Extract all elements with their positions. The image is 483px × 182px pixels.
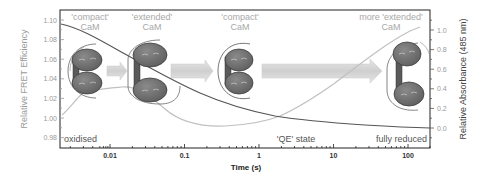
left-tick-label: 0.98 <box>43 134 57 141</box>
x-tick-labels: 0.01 0.1 1 10 100 <box>103 152 414 159</box>
right-tick-label: 0.2 <box>437 105 447 112</box>
x-axis-title: Time (s) <box>231 163 262 172</box>
transition-arrow-3 <box>262 59 382 83</box>
right-tick-label: 0.0 <box>437 125 447 132</box>
left-tick-label: 1.06 <box>43 56 57 63</box>
annotation-fully-reduced: fully reduced <box>376 134 427 144</box>
transition-arrow-2 <box>171 60 213 82</box>
x-axis <box>70 144 430 148</box>
x-tick-label: 0.1 <box>180 152 190 159</box>
chart-canvas: 1.10 1.08 1.06 1.04 1.02 1.00 0.98 Relat… <box>0 0 483 182</box>
right-tick-label: 0.4 <box>437 85 447 92</box>
state-label-compact-1-line1: 'compact' <box>71 12 109 22</box>
cam-structure-more-extended <box>387 42 431 110</box>
state-label-more-extended-line1: more 'extended' <box>359 12 423 22</box>
x-tick-label: 100 <box>402 152 414 159</box>
state-label-compact-2-line1: 'compact' <box>221 12 259 22</box>
state-label-compact-1-line2: CaM <box>80 22 99 32</box>
left-y-tick-labels: 1.10 1.08 1.06 1.04 1.02 1.00 0.98 <box>43 17 57 142</box>
state-label-more-extended-line2: CaM <box>381 22 400 32</box>
right-y-axis <box>430 20 434 138</box>
left-tick-label: 1.04 <box>43 75 57 82</box>
state-label-extended-line1: 'extended' <box>132 12 173 22</box>
state-label-extended-line2: CaM <box>142 22 161 32</box>
state-label-compact-2-line2: CaM <box>230 22 249 32</box>
right-y-tick-labels: 1.0 0.8 0.6 0.4 0.2 0.0 <box>437 27 447 132</box>
left-y-axis-title: Relative FRET Efficiency <box>19 29 29 129</box>
x-tick-label: 10 <box>330 152 338 159</box>
state-labels: 'compact' CaM 'extended' CaM 'compact' C… <box>71 12 423 32</box>
right-y-axis-title: Relative Absorbance (485 nm) <box>458 18 468 139</box>
x-tick-label: 0.01 <box>103 152 117 159</box>
left-tick-label: 1.02 <box>43 95 57 102</box>
cam-structure-compact-2 <box>218 43 253 98</box>
right-tick-label: 1.0 <box>437 27 447 34</box>
annotation-qe-state: 'QE' state <box>277 134 315 144</box>
left-y-axis <box>60 20 64 138</box>
left-tick-label: 1.00 <box>43 115 57 122</box>
left-tick-label: 1.08 <box>43 36 57 43</box>
transition-arrow-1 <box>107 62 127 80</box>
right-tick-label: 0.8 <box>437 46 447 53</box>
right-tick-label: 0.6 <box>437 66 447 73</box>
annotation-oxidised: oxidised <box>64 134 97 144</box>
left-tick-label: 1.10 <box>43 17 57 24</box>
cam-structure-compact-1 <box>68 44 102 98</box>
x-tick-label: 1 <box>257 152 261 159</box>
